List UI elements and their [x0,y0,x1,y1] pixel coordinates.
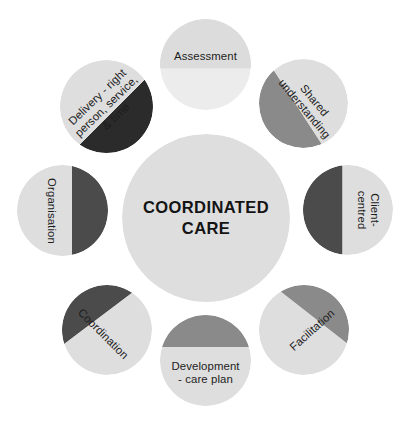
node-shared-understanding[interactable]: Shared understanding [259,59,348,148]
node-assessment[interactable]: Assessment [160,19,251,110]
node-organisation[interactable]: Organisation [17,165,108,256]
node-development-care-plan-wedge [160,315,251,406]
node-delivery-wedge [60,60,153,153]
node-facilitation-wedge [259,285,349,375]
node-client-centred-wedge [303,165,393,255]
coordinated-care-diagram: Delivery - right person, service, & time… [0,0,412,425]
node-development-care-plan[interactable]: Development - care plan [160,315,251,406]
node-coordinated-care-center[interactable]: COORDINATED CARE [122,134,290,302]
node-client-centred[interactable]: Client- centred [303,165,393,255]
node-coordination-wedge [62,285,152,375]
node-center-base [122,134,290,302]
node-facilitation[interactable]: Facilitation [259,285,349,375]
node-assessment-wedge [160,19,251,110]
node-shared-understanding-wedge [259,59,348,148]
node-organisation-wedge [17,165,108,256]
node-coordination[interactable]: Coordination [62,285,152,375]
node-delivery[interactable]: Delivery - right person, service, & time [60,60,153,153]
